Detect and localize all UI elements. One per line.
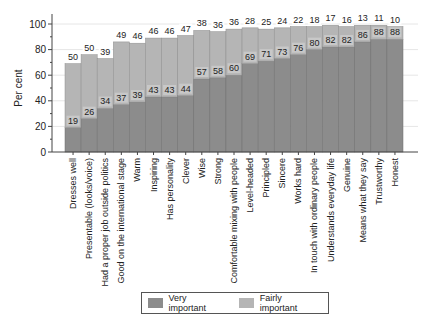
x-tick-label: Genuine: [342, 158, 352, 192]
x-tick-label: Means what they say: [358, 158, 368, 243]
bar-very-important: [210, 78, 226, 152]
value-label-fairly-important: 46: [165, 26, 175, 36]
bars: 1950265034393749394643464346444757385836…: [65, 13, 403, 152]
bar-very-important: [65, 128, 81, 152]
x-tick-label: Warm: [132, 158, 142, 182]
value-label-very-important: 43: [165, 85, 175, 95]
value-label-very-important: 60: [229, 63, 239, 73]
x-tick-label: Presentable (looks/voice): [84, 158, 94, 259]
value-label-very-important: 71: [261, 49, 271, 59]
value-label-very-important: 76: [293, 43, 303, 53]
stacked-bar-chart: 1950265034393749394643464346444757385836…: [0, 0, 427, 290]
bar-very-important: [162, 97, 178, 152]
y-axis-title: Per cent: [13, 69, 24, 106]
bar-very-important: [129, 102, 145, 152]
x-tick-label: Understands everyday life: [326, 158, 336, 262]
legend-item-fairly-important: Fairly important: [239, 293, 320, 313]
bar-very-important: [113, 105, 129, 152]
bar-very-important: [290, 55, 306, 152]
x-tick-label: Comfortable mixing with people: [229, 158, 239, 284]
legend-label: Very important: [169, 293, 225, 313]
x-tick-label: Clever: [181, 158, 191, 184]
x-tick-label: Had a proper job outside politics: [100, 158, 110, 287]
bar-very-important: [178, 96, 194, 152]
value-label-very-important: 39: [132, 90, 142, 100]
x-tick-label: Inspiring: [149, 158, 159, 192]
value-label-very-important: 57: [197, 67, 207, 77]
value-label-fairly-important: 49: [116, 30, 126, 40]
value-label-very-important: 69: [245, 52, 255, 62]
x-tick-label: Works hard: [293, 158, 303, 204]
value-label-fairly-important: 46: [149, 26, 159, 36]
bar-very-important: [258, 61, 274, 152]
legend-item-very-important: Very important: [148, 293, 225, 313]
x-axis-labels: Dresses wellPresentable (looks/voice)Had…: [68, 158, 400, 287]
bar-very-important: [226, 75, 242, 152]
x-tick-label: Honest: [390, 158, 400, 187]
value-label-fairly-important: 47: [181, 24, 191, 34]
value-label-very-important: 80: [309, 38, 319, 48]
value-label-fairly-important: 22: [293, 15, 303, 25]
value-label-fairly-important: 18: [309, 15, 319, 25]
value-label-fairly-important: 38: [197, 18, 207, 28]
y-tick-label: 80: [35, 44, 47, 55]
y-tick-label: 100: [29, 19, 46, 30]
bar-very-important: [387, 39, 403, 152]
value-label-very-important: 58: [213, 66, 223, 76]
x-tick-label: Level-headed: [245, 158, 255, 213]
value-label-very-important: 37: [116, 93, 126, 103]
x-tick-label: Good on the international stage: [116, 158, 126, 284]
value-label-very-important: 19: [68, 116, 78, 126]
value-label-very-important: 34: [100, 96, 110, 106]
legend-label: Fairly important: [260, 293, 320, 313]
value-label-fairly-important: 17: [326, 13, 336, 23]
bar-very-important: [97, 108, 113, 152]
y-tick-label: 20: [35, 121, 47, 132]
value-label-very-important: 82: [342, 35, 352, 45]
value-label-fairly-important: 46: [132, 31, 142, 41]
bar-very-important: [145, 97, 161, 152]
value-label-fairly-important: 25: [261, 17, 271, 27]
value-label-fairly-important: 28: [245, 16, 255, 26]
x-tick-label: Trustworthy: [374, 158, 384, 205]
bar-very-important: [323, 47, 339, 152]
value-label-very-important: 73: [277, 47, 287, 57]
value-label-fairly-important: 11: [374, 13, 383, 23]
value-label-fairly-important: 16: [342, 15, 352, 25]
y-tick-label: 0: [40, 147, 46, 158]
value-label-fairly-important: 10: [390, 15, 400, 25]
value-label-very-important: 86: [358, 30, 368, 40]
value-label-fairly-important: 24: [277, 16, 287, 26]
value-label-very-important: 82: [326, 35, 336, 45]
bar-very-important: [306, 50, 322, 152]
value-label-fairly-important: 13: [358, 13, 368, 23]
x-tick-label: Wise: [197, 158, 207, 178]
y-tick-label: 60: [35, 70, 47, 81]
x-tick-label: Strong: [213, 158, 223, 185]
bar-very-important: [371, 39, 387, 152]
value-label-fairly-important: 50: [84, 43, 94, 53]
bar-very-important: [355, 42, 371, 152]
bar-very-important: [194, 79, 210, 152]
x-tick-label: Has personality: [165, 158, 175, 221]
bar-very-important: [339, 47, 355, 152]
x-tick-label: Dresses well: [68, 158, 78, 209]
value-label-fairly-important: 39: [100, 47, 110, 57]
value-label-very-important: 88: [390, 27, 400, 37]
x-tick-label: Principled: [261, 158, 271, 198]
legend: Very important Fairly important: [141, 292, 329, 314]
legend-swatch-fairly-important: [239, 298, 254, 308]
legend-swatch-very-important: [148, 298, 163, 308]
value-label-fairly-important: 50: [68, 52, 78, 62]
value-label-very-important: 43: [149, 85, 159, 95]
bar-very-important: [274, 59, 290, 152]
x-tick-label: Sincere: [277, 158, 287, 189]
bar-very-important: [242, 64, 258, 152]
x-tick-label: In touch with ordinary people: [309, 158, 319, 273]
value-label-very-important: 44: [181, 84, 191, 94]
y-tick-label: 40: [35, 95, 47, 106]
value-label-fairly-important: 36: [229, 17, 239, 27]
bar-very-important: [81, 119, 97, 152]
value-label-very-important: 88: [374, 27, 384, 37]
value-label-very-important: 26: [84, 107, 94, 117]
